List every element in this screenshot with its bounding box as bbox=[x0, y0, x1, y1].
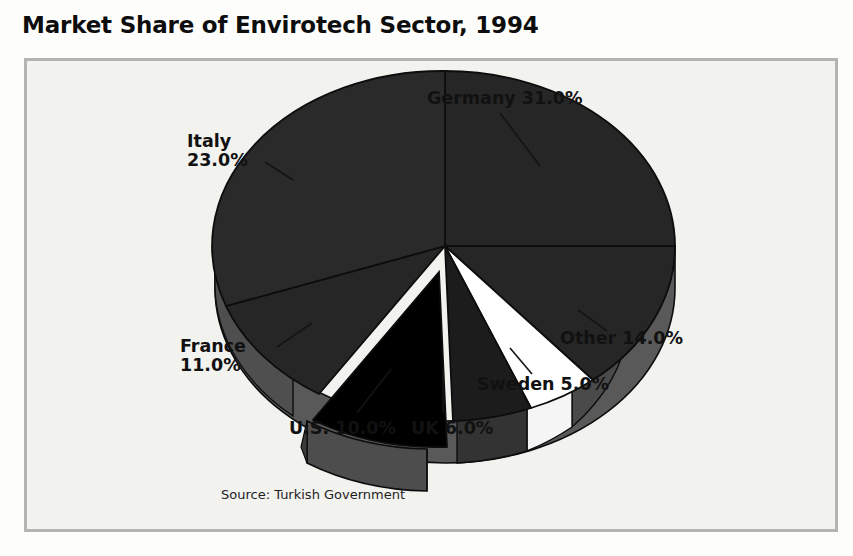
chart-page: Market Share of Envirotech Sector, 1994 bbox=[0, 0, 853, 556]
plot-area: Germany 31.0% Italy 23.0% France 11.0% U… bbox=[27, 61, 835, 529]
slice-label-italy: Italy 23.0% bbox=[187, 132, 248, 171]
source-note: Source: Turkish Government bbox=[221, 487, 405, 502]
slice-label-uk: UK 6.0% bbox=[411, 419, 493, 439]
slice-label-france-value: 11.0% bbox=[180, 356, 246, 375]
slice-label-italy-name: Italy bbox=[187, 132, 248, 151]
slice-label-france: France 11.0% bbox=[180, 337, 246, 376]
pie-chart-graphic bbox=[27, 61, 841, 535]
slice-label-other: Other 14.0% bbox=[560, 329, 683, 349]
slice-label-italy-value: 23.0% bbox=[187, 151, 248, 170]
slice-label-us: U.S. 10.0% bbox=[289, 419, 396, 439]
slice-label-sweden: Sweden 5.0% bbox=[477, 375, 609, 395]
slice-label-germany: Germany 31.0% bbox=[427, 89, 583, 109]
slice-label-france-name: France bbox=[180, 337, 246, 356]
chart-frame: Germany 31.0% Italy 23.0% France 11.0% U… bbox=[24, 58, 838, 532]
page-title: Market Share of Envirotech Sector, 1994 bbox=[22, 12, 538, 38]
